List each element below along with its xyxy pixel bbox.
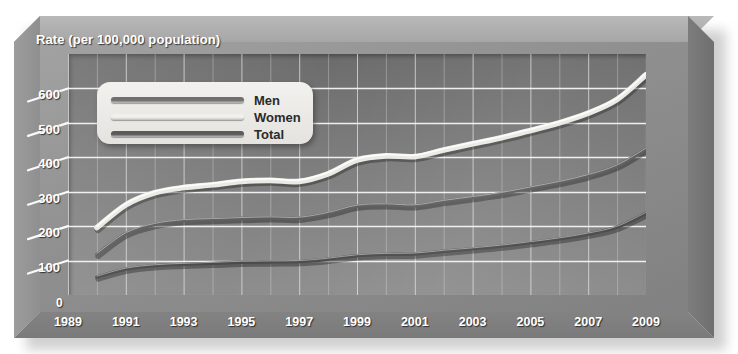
x-axis-tick-1993: 1993	[170, 315, 198, 329]
x-axis-tick-1997: 1997	[285, 315, 313, 329]
legend-label-total: Total	[254, 128, 284, 141]
legend-swatch-women	[111, 114, 244, 120]
x-axis-tick-2001: 2001	[401, 315, 429, 329]
x-axis-tick-1991: 1991	[112, 315, 140, 329]
y-axis-tick-600: 600	[38, 87, 60, 102]
x-axis-tick-2005: 2005	[516, 315, 544, 329]
legend-item-total: Total	[111, 127, 284, 141]
x-axis-tick-2009: 2009	[632, 315, 660, 329]
y-axis-tick-400: 400	[38, 156, 60, 171]
y-axis-tick-100: 100	[38, 259, 60, 274]
x-axis-tick-1999: 1999	[343, 315, 371, 329]
legend-item-women: Women	[111, 110, 301, 124]
legend-label-men: Men	[254, 94, 280, 107]
y-axis-tick-500: 500	[38, 121, 60, 136]
x-axis-tick-1989: 1989	[54, 315, 82, 329]
chart-legend: Men Women Total	[97, 82, 313, 144]
chart-title: Rate (per 100,000 population)	[36, 32, 220, 47]
x-axis-tick-2003: 2003	[459, 315, 487, 329]
y-axis-tick-200: 200	[38, 225, 60, 240]
legend-label-women: Women	[254, 111, 301, 124]
y-axis-tick-0: 0	[56, 296, 63, 310]
legend-swatch-men	[111, 97, 244, 103]
x-axis-tick-1995: 1995	[227, 315, 255, 329]
chart-screenshot: Rate (per 100,000 population) 1002003004…	[0, 0, 738, 354]
legend-item-men: Men	[111, 93, 280, 107]
x-axis-tick-2007: 2007	[574, 315, 602, 329]
frame-bevel-left	[14, 16, 42, 338]
y-axis-tick-300: 300	[38, 190, 60, 205]
legend-swatch-total	[111, 131, 244, 137]
